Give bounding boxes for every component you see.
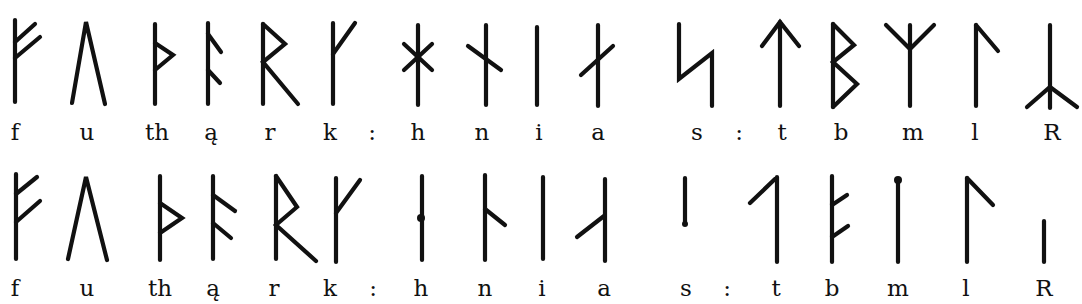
label-h: h [411, 121, 426, 144]
label-t: t [771, 277, 780, 300]
label-th: th [145, 121, 169, 144]
rune-tyr-short-icon [750, 177, 777, 262]
rune-ar-icon [581, 25, 613, 106]
rune-tiwaz-icon [762, 22, 799, 106]
label-R: R [1035, 277, 1052, 300]
rune-mannaz-icon [886, 25, 934, 106]
rune-sowilo-icon [679, 24, 712, 106]
label-l: l [971, 121, 978, 144]
rune-hagall-icon [404, 25, 432, 105]
rune-ansuz-icon [208, 23, 221, 104]
rune-logr-icon [967, 178, 993, 262]
rune-berkanan-icon [833, 24, 857, 107]
label-R: R [1043, 121, 1060, 144]
label-m: m [902, 121, 924, 144]
rune-fehu-icon [15, 20, 40, 102]
label-t: t [777, 121, 786, 144]
rune-hagall-dotted-icon [417, 176, 425, 260]
rune-madr-short-icon [894, 176, 902, 262]
label-a: a [597, 277, 611, 300]
label-s: s [691, 121, 703, 144]
label-colon-2: : [723, 277, 731, 300]
label-k: k [323, 121, 337, 144]
rune-thurs-icon [160, 176, 182, 260]
rune-fe-icon [16, 174, 40, 259]
label-a-ogonek: ą [206, 277, 220, 300]
rune-bjarkan-short-icon [832, 176, 848, 262]
rune-oss-icon [213, 176, 235, 259]
rune-laguz-icon [976, 25, 998, 106]
rune-reid-icon [276, 176, 316, 261]
label-i: i [535, 121, 542, 144]
label-r: r [269, 277, 280, 300]
rune-kaunan-icon [333, 23, 355, 104]
rune-row-elder: f u th ą r k : h n i a s : t b m l R [0, 0, 1082, 152]
label-l: l [962, 277, 969, 300]
rune-sol-short-icon [682, 178, 688, 227]
label-f: f [11, 277, 20, 300]
rune-ar-short-icon [577, 179, 605, 261]
label-k: k [323, 277, 337, 300]
rune-naudiz-icon [468, 25, 501, 105]
rune-thurisaz-icon [155, 24, 173, 104]
label-h: h [414, 277, 429, 300]
rune-raido-icon [263, 24, 298, 104]
label-b: b [834, 121, 849, 144]
label-u: u [80, 121, 95, 144]
label-m: m [887, 277, 909, 300]
label-n: n [478, 277, 493, 300]
label-a-ogonek: ą [204, 121, 218, 144]
label-n: n [475, 121, 490, 144]
label-th: th [148, 277, 172, 300]
label-i: i [538, 277, 545, 300]
rune-kaun-icon [336, 178, 360, 262]
rune-row-younger: f u th ą r k : h n i a s : t b m l R [0, 152, 1082, 304]
label-colon: : [368, 121, 376, 144]
label-s: s [680, 277, 692, 300]
label-r: r [265, 121, 276, 144]
rune-algiz-inverted-icon [1027, 25, 1077, 108]
label-colon: : [369, 277, 377, 300]
label-f: f [11, 121, 20, 144]
rune-ur-icon [68, 177, 107, 260]
label-colon-2: : [735, 121, 743, 144]
label-a: a [591, 121, 605, 144]
label-b: b [825, 277, 840, 300]
rune-naud-short-icon [485, 175, 505, 260]
rune-uruz-icon [72, 22, 105, 104]
label-u: u [80, 277, 95, 300]
